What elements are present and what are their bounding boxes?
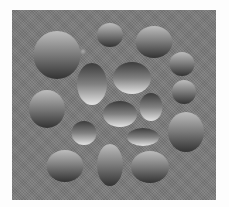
convex-right-small-1-ellipse <box>170 52 195 76</box>
convex-top-right-ellipse <box>136 26 173 58</box>
convex-right-large-ellipse <box>168 112 204 152</box>
convex-left-middle-ellipse <box>29 90 65 128</box>
shaded-ellipses-layer <box>0 0 229 207</box>
convex-bottom-center-vertical-ellipse <box>97 144 123 186</box>
convex-top-center-small-ellipse <box>97 23 123 47</box>
convex-top-left-large-ellipse <box>34 31 81 79</box>
illusion-image <box>0 0 229 207</box>
concave-small-left-ellipse <box>72 121 97 145</box>
tiny-bump-ellipse <box>80 49 86 55</box>
concave-right-ellipse <box>140 93 163 121</box>
concave-top-center-ellipse <box>113 62 151 94</box>
convex-right-small-2-ellipse <box>172 80 196 104</box>
concave-center-ellipse <box>103 101 137 127</box>
concave-lower-right-ellipse-ellipse <box>127 128 159 146</box>
concave-vertical-ellipse-ellipse <box>77 63 107 105</box>
convex-bottom-left-ellipse <box>47 150 84 182</box>
convex-bottom-right-ellipse <box>131 151 169 183</box>
